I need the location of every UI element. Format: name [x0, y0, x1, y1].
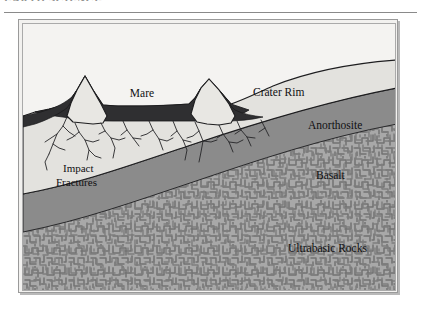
moon-cross-section-diagram: Mare Crater Rim Anorthosite Basalt Impac…	[23, 24, 396, 291]
label-anorthosite: Anorthosite	[308, 119, 362, 131]
label-basalt: Basalt	[316, 169, 346, 181]
figure-frame: Cross Section of the Moon	[18, 19, 398, 293]
page-header-cropped-text: EARTH SCIENCE	[4, 0, 102, 1]
header-divider-rule	[4, 12, 417, 13]
label-impact-fractures-line2: Fractures	[56, 176, 97, 188]
label-mare: Mare	[130, 87, 154, 99]
page-header: EARTH SCIENCE	[0, 0, 421, 18]
figure-inner-border: Cross Section of the Moon	[22, 23, 396, 291]
label-crater-rim: Crater Rim	[253, 86, 304, 98]
label-ultrabasic-rocks: Ultrabasic Rocks	[288, 242, 367, 254]
label-impact-fractures-line1: Impact	[63, 162, 94, 174]
